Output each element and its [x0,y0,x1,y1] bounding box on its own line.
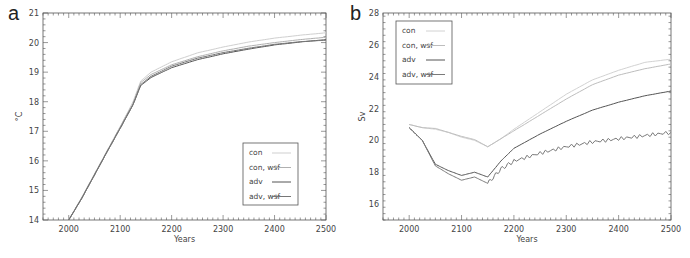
x-tick-label: 2400 [264,225,284,234]
y-tick-label: 16 [29,157,39,166]
x-tick-label: 2000 [59,225,79,234]
legend-label: adv [402,55,416,64]
x-axis-title: Years [173,235,195,244]
y-tick-label: 18 [369,168,379,177]
x-tick-label: 2100 [451,225,471,234]
y-tick-label: 16 [369,200,379,209]
legend-label: con [402,26,416,35]
chart-b: 200021002200230024002500Years16182022242… [345,0,690,258]
y-tick-label: 14 [29,216,39,225]
y-tick-label: 20 [369,136,379,145]
y-tick-label: 17 [29,127,39,136]
x-tick-label: 2100 [110,225,130,234]
x-tick-label: 2000 [399,225,419,234]
y-tick-label: 18 [29,98,39,107]
x-tick-label: 2500 [661,225,681,234]
x-tick-label: 2300 [556,225,576,234]
panel-b: b 200021002200230024002500Years161820222… [345,0,690,258]
series-line-adv-wsf [409,128,671,184]
y-tick-label: 15 [29,186,39,195]
y-tick-label: 22 [369,105,379,114]
y-tick-label: 26 [369,41,379,50]
y-tick-label: 19 [29,68,39,77]
legend-label: con [249,148,263,157]
legend-label: adv [249,177,263,186]
x-tick-label: 2200 [161,225,181,234]
chart-a: 200021002200230024002500Years14151617181… [0,0,345,258]
x-tick-label: 2200 [504,225,524,234]
y-tick-label: 21 [29,9,39,18]
y-tick-label: 24 [369,73,379,82]
y-axis-title: °C [15,111,24,121]
panel-a: a 200021002200230024002500Years141516171… [0,0,345,258]
x-axis-title: Years [515,235,537,244]
x-tick-label: 2400 [608,225,628,234]
y-tick-label: 20 [29,39,39,48]
x-tick-label: 2500 [316,225,336,234]
y-tick-label: 28 [369,9,379,18]
series-line-adv [409,91,671,177]
y-axis-title: Sv [358,111,367,121]
x-tick-label: 2300 [213,225,233,234]
